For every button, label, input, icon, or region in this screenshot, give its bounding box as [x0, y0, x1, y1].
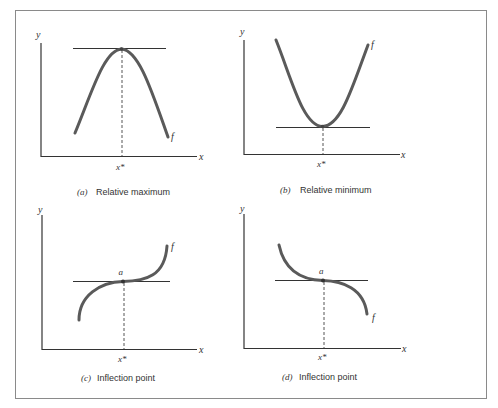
panel-a-caption-letter: (a) — [77, 187, 88, 197]
panel-b-caption-letter: (b) — [280, 185, 291, 195]
panel-a-x-label: x — [198, 151, 204, 162]
panel-d-point-label: a — [319, 266, 324, 276]
panel-a-function-label: f — [171, 131, 175, 142]
panel-b-y-label: y — [239, 26, 245, 37]
panel-d-x-star-label: x* — [317, 352, 327, 362]
panel-d-y-label: y — [239, 203, 245, 214]
panel-b-x-star-label: x* — [316, 159, 326, 169]
panel-c-y-label: y — [37, 204, 43, 215]
panel-c-inflection-point-marker — [121, 280, 125, 284]
panel-c-caption-letter: (c) — [81, 373, 91, 383]
panel-a-relative-maximum: y x f x* (a) Relative maximum — [35, 29, 204, 197]
panel-b-extremum-point — [321, 125, 325, 129]
panel-c-inflection-point: y x a f x* (c) Inflection point — [37, 204, 204, 383]
panel-d-x-label: x — [401, 343, 407, 354]
panel-b-caption-text: Relative minimum — [300, 185, 372, 195]
panel-d-function-label: f — [372, 312, 376, 323]
panel-b-x-label: x — [400, 149, 406, 160]
panel-d-inflection-point: y x a f x* (d) Inflection point — [239, 203, 407, 382]
panel-c-function-label: f — [171, 241, 175, 252]
figure-canvas: y x f x* (a) Relative maximum y x f — [0, 0, 498, 408]
panel-a-x-star-label: x* — [115, 162, 125, 172]
figure: y x f x* (a) Relative maximum y x f — [0, 0, 498, 408]
panel-c-caption-text: Inflection point — [97, 373, 156, 383]
panel-a-y-label: y — [35, 29, 41, 40]
panel-b-curve-f — [276, 40, 368, 127]
panel-d-caption-text: Inflection point — [299, 372, 358, 382]
panel-d-caption-letter: (d) — [282, 372, 293, 382]
panel-d-inflection-point-marker — [321, 279, 325, 283]
panel-c-x-label: x — [198, 344, 204, 355]
panel-a-caption-text: Relative maximum — [96, 187, 170, 197]
panel-c-point-label: a — [119, 267, 124, 277]
panel-b-function-label: f — [371, 39, 375, 50]
panel-c-x-star-label: x* — [117, 354, 127, 364]
panel-b-relative-minimum: y x f x* (b) Relative minimum — [239, 26, 406, 195]
panel-a-extremum-point — [120, 47, 124, 51]
